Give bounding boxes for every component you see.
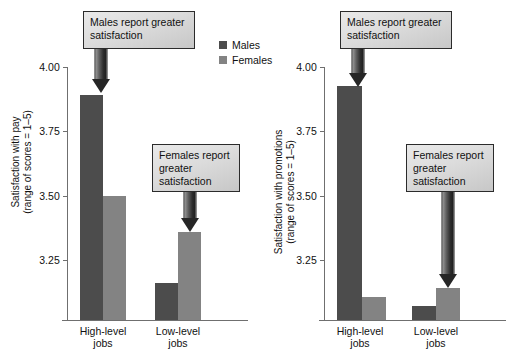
y-tick-label-375: 3.75 [277,125,317,137]
bar-pay-high-level-females [103,196,126,320]
bar-pay-low-level-females [178,232,201,320]
callout-promotions-males-greater-arrow-icon [340,49,376,87]
x-category-label-line-1: High-level [320,325,400,337]
y-tick-375 [63,131,68,132]
callout-pay-males-greater-arrow-icon [83,49,119,93]
x-category-label-line-2: jobs [63,337,143,349]
y-tick-375 [320,131,325,132]
x-category-label-line-1: High-level [63,325,143,337]
x-category-label-high-level-jobs: High-level jobs [320,325,400,349]
bar-promotions-high-level-males [337,86,362,320]
callout-promotions-females-greater-box: Females report greater satisfaction [406,144,494,192]
y-tick-325 [63,260,68,261]
y-tick-400 [63,67,68,68]
x-category-label-line-2: jobs [320,337,400,349]
y-tick-350 [320,196,325,197]
y-tick-325 [320,260,325,261]
bar-promotions-low-level-males [412,306,436,320]
y-tick-label-325: 3.25 [20,254,60,266]
x-axis-line [319,320,506,321]
y-tick-350 [63,196,68,197]
bar-pay-low-level-males [155,283,178,320]
legend-label-males: Males [232,39,260,51]
y-axis-label-line-1: Satisfaction with pay [10,87,22,237]
x-category-label-line-2: jobs [138,337,218,349]
x-category-label-low-level-jobs: Low-level jobs [138,325,218,349]
chart-panel-satisfaction-with-pay: Satisfaction with pay (range of scores =… [0,0,258,356]
x-axis-line [62,320,248,321]
x-category-label-low-level-jobs: Low-level jobs [396,325,476,349]
callout-pay-females-greater-box: Females report greater satisfaction [152,144,240,192]
y-axis-line [67,67,68,321]
x-category-label-high-level-jobs: High-level jobs [63,325,143,349]
y-tick-label-400: 4.00 [20,61,60,73]
y-tick-label-375: 3.75 [20,125,60,137]
legend-swatch-males-icon [219,41,227,49]
callout-promotions-females-greater-arrow-icon [430,192,466,288]
bar-promotions-high-level-females [362,297,386,320]
x-category-label-line-1: Low-level [396,325,476,337]
x-category-label-line-1: Low-level [138,325,218,337]
callout-pay-females-greater-arrow-icon [172,192,208,232]
y-tick-label-325: 3.25 [277,254,317,266]
y-axis-label: Satisfaction with pay (range of scores =… [10,87,34,237]
callout-pay-males-greater-box: Males report greater satisfaction [83,11,195,49]
y-axis-line [324,67,325,321]
y-tick-400 [320,67,325,68]
y-tick-label-350: 3.50 [20,190,60,202]
y-tick-label-400: 4.00 [277,61,317,73]
bar-promotions-low-level-females [436,288,460,320]
bar-pay-high-level-males [80,95,103,320]
callout-promotions-males-greater-box: Males report greater satisfaction [340,11,452,49]
legend-swatch-females-icon [219,56,227,64]
chart-panel-satisfaction-with-promotions: Satisfaction with promotions (range of s… [258,0,518,356]
x-category-label-line-2: jobs [396,337,476,349]
y-tick-label-350: 3.50 [277,190,317,202]
y-axis-label-line-2: (range of scores = 1–5) [22,87,34,237]
